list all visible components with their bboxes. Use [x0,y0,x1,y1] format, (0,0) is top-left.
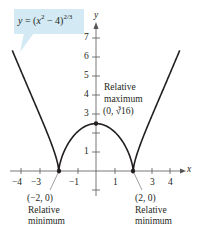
min-left-leader [50,171,59,190]
max-coordinate: (0, 3√16) [103,106,134,117]
y-tick-label: 4 [84,89,89,100]
y-tick-label: 7 [84,32,89,43]
max-annotation-line1: Relative [104,82,136,93]
min-right-point [131,169,135,173]
x-tick-label: −4 [12,177,22,188]
min-right-leader [133,171,142,190]
min-left-point [57,169,61,173]
x-tick-label: 4 [168,177,173,188]
min-left-line1: Relative [28,205,60,216]
min-left-coordinate: (−2, 0) [27,193,53,204]
min-left-line2: minimum [28,216,65,227]
max-annotation-line2: maximum [104,94,143,105]
x-tick-label: −1 [69,177,79,188]
x-tick-label: −3 [31,177,41,188]
min-right-line2: minimum [135,216,172,227]
max-point [94,121,98,125]
x-axis [10,168,186,174]
y-tick-label: 5 [84,70,89,81]
y-axis-label: y [94,10,98,21]
x-tick-label: 3 [150,177,155,188]
y-tick-label: 3 [84,108,89,119]
y-axis [92,22,100,196]
x-axis-label: x [187,164,191,175]
min-right-coordinate: (2, 0) [135,193,156,204]
x-tick-label: 1 [113,177,118,188]
min-right-line1: Relative [135,205,167,216]
y-tick-label: 6 [84,51,89,62]
y-tick-label: 1 [84,146,89,157]
